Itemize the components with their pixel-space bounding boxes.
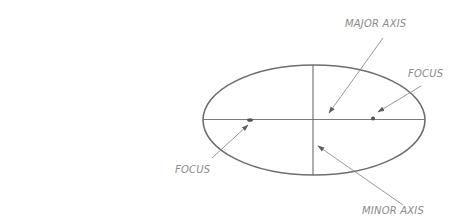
major-axis-arrow — [329, 38, 383, 113]
focus-left-label: FOCUS — [175, 164, 210, 176]
major-axis-label: MAJOR AXIS — [345, 18, 406, 30]
focus-right-label: FOCUS — [408, 68, 443, 80]
focus-right-arrow — [378, 86, 421, 112]
minor-axis-label: MINOR AXIS — [362, 205, 424, 217]
minor-axis-arrow — [318, 146, 403, 205]
leader-arrows — [212, 38, 421, 205]
focus-right-point — [371, 117, 375, 121]
ellipse-diagram — [0, 0, 464, 219]
focus-left-point — [247, 118, 253, 122]
focus-left-arrow — [212, 125, 248, 158]
